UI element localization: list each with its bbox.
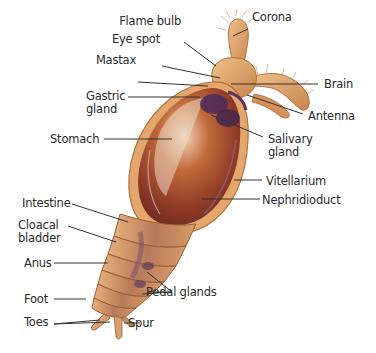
label-mastax: Mastax	[90, 54, 136, 67]
label-stomach: Stomach	[50, 133, 99, 146]
pedal-gland	[142, 262, 154, 270]
salivary-gland	[216, 109, 240, 127]
label-toes: Toes	[24, 316, 48, 329]
label-vitellarium: Vitellarium	[266, 175, 326, 188]
label-spur: Spur	[128, 317, 154, 330]
label-foot: Foot	[24, 293, 48, 306]
label-flame-bulb: Flame bulb	[115, 15, 181, 28]
label-salivary-gland-2: gland	[268, 146, 299, 159]
label-pedal-glands: Pedal glands	[146, 286, 217, 299]
label-brain: Brain	[324, 78, 353, 91]
label-intestine: Intestine	[22, 197, 71, 210]
label-corona: Corona	[252, 11, 292, 24]
rotifer-diagram: Corona Flame bulb Eye spot Mastax Brain …	[0, 0, 376, 353]
label-cloacal-bladder-2: bladder	[18, 232, 61, 245]
pedal-gland	[134, 280, 146, 288]
label-gastric-gland-2: gland	[86, 103, 117, 116]
label-eye-spot: Eye spot	[105, 33, 160, 46]
label-anus: Anus	[24, 257, 52, 270]
foot-segments	[92, 214, 196, 318]
label-nephridioduct: Nephridioduct	[262, 194, 341, 207]
label-antenna: Antenna	[308, 110, 355, 123]
